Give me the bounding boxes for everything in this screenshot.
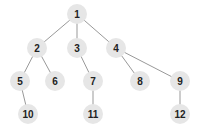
tree-node-2: 2 [27,38,47,58]
tree-node-1: 1 [67,4,87,24]
tree-node-9: 9 [170,71,190,91]
node-label: 4 [113,43,119,54]
tree-node-3: 3 [67,38,87,58]
tree-node-6: 6 [45,71,65,91]
node-label: 6 [52,76,58,87]
node-label: 8 [137,76,143,87]
tree-node-11: 11 [83,104,103,124]
node-label: 10 [22,109,34,120]
tree-node-12: 12 [170,104,190,124]
node-label: 1 [74,9,80,20]
tree-node-10: 10 [18,104,38,124]
edges [20,14,180,114]
nodes: 123456789101112 [10,4,190,124]
node-label: 5 [17,76,23,87]
tree-node-4: 4 [106,38,126,58]
node-label: 12 [174,109,186,120]
tree-node-5: 5 [10,71,30,91]
tree-node-7: 7 [83,71,103,91]
tree-node-8: 8 [130,71,150,91]
node-label: 3 [74,43,80,54]
node-label: 7 [90,76,96,87]
node-label: 2 [34,43,40,54]
node-label: 11 [88,109,99,120]
node-label: 9 [177,76,183,87]
tree-diagram: 123456789101112 [0,0,198,132]
